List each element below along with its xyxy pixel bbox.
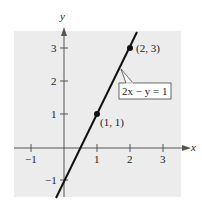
- equation-label: 2x − y = 1: [122, 85, 167, 97]
- y-tick-label: 1: [51, 108, 57, 120]
- y-tick-label: 3: [51, 42, 57, 54]
- y-tick-label: −1: [45, 174, 57, 186]
- x-tick-label: 2: [127, 153, 133, 165]
- x-tick-label: −1: [25, 153, 37, 165]
- x-tick-label: 1: [94, 153, 100, 165]
- point-label-2-3: (2, 3): [136, 42, 160, 55]
- point-label-1-1: (1, 1): [100, 116, 124, 129]
- x-axis-label: x: [190, 141, 196, 153]
- y-axis-label: y: [59, 10, 65, 22]
- y-tick-label: 2: [51, 75, 57, 87]
- point-2-3: [127, 45, 133, 51]
- x-tick-label: 3: [160, 153, 166, 165]
- coordinate-plot: −1 1 2 3 3 2 1 −1 x y (1, 1) (2, 3) 2x −…: [0, 0, 202, 208]
- x-axis-arrow-icon: [182, 145, 191, 151]
